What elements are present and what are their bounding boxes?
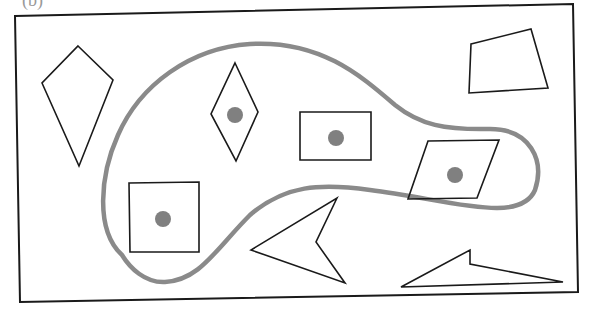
enclosing-region-curve [103,44,538,282]
figure-label-partial: (b) [22,0,43,11]
rectangle-shape [300,112,371,160]
rhombus-shape [211,63,258,161]
dot-marker [447,167,463,183]
kite-outline [42,46,113,166]
quadrilateral-outline [469,29,548,93]
diagram-canvas: (b) [0,0,590,319]
arrowhead-shape [251,198,345,283]
concave-triangle-shape [401,250,563,287]
diagram-svg [0,0,590,319]
concave-triangle-outline [401,250,563,287]
kite-shape [42,46,113,166]
dot-marker [328,130,344,146]
square-shape [129,182,199,252]
parallelogram-shape [408,140,499,199]
quadrilateral-shape [469,29,548,93]
dot-marker [155,211,171,227]
dot-marker [227,107,243,123]
arrowhead-outline [251,198,345,283]
shapes-inside-region [129,63,499,252]
shapes-outside-region [42,29,563,287]
